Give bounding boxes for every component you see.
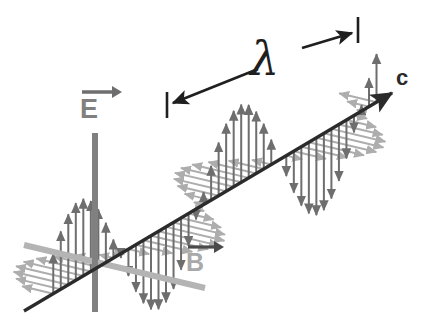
b-field-label: B — [186, 250, 204, 275]
c-axis-line — [24, 93, 392, 311]
wavelength-arrow-left — [173, 69, 258, 103]
field-arrow — [339, 93, 376, 102]
propagation-label: c — [396, 67, 408, 89]
field-arrow — [166, 227, 224, 241]
field-arrow — [252, 160, 271, 165]
field-arrow — [128, 249, 149, 254]
wavelength-label: λ — [250, 36, 279, 82]
field-arrow — [16, 266, 76, 280]
wavelength-arrow-right — [302, 33, 352, 48]
field-arrow — [189, 214, 214, 220]
field-arrow — [185, 194, 212, 200]
field-arrow — [346, 120, 376, 127]
field-arrow — [324, 133, 384, 147]
wave-canvas — [0, 0, 428, 324]
field-arrow — [175, 173, 234, 187]
field-arrow — [347, 101, 369, 106]
b-vector-hat-arrowhead-icon — [214, 241, 224, 253]
field-arrow — [22, 286, 53, 293]
e-vector-hat-arrowhead-icon — [112, 86, 122, 98]
e-field-label: E — [80, 96, 98, 123]
em-wave-figure: E B c λ — [0, 0, 428, 324]
vector-hat-arrow-group — [82, 86, 224, 253]
